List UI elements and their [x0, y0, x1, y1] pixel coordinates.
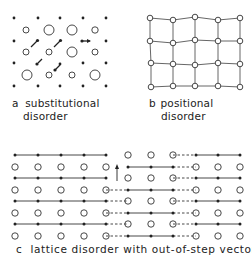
panel-b-letter: b [149, 97, 156, 109]
panel-c-right [173, 154, 243, 240]
panel-c-letter: c [16, 243, 22, 255]
panel-c-left-dot-rows [14, 154, 108, 226]
panel-b-title-line1: positional [160, 97, 213, 109]
panel-c-label: c lattice disorder with out-of-step vect… [16, 244, 252, 255]
panel-b-label: b positional [149, 98, 213, 109]
panel-a-title-line1: substitutional [25, 97, 99, 109]
panel-a-substitutional-lattice [13, 17, 108, 88]
panel-a-displacement-arrows [31, 39, 91, 72]
panel-c-caption: lattice disorder with out-of-step vector [31, 243, 252, 255]
panel-b-positional-lattice [147, 14, 243, 90]
disorder-diagram [0, 0, 252, 261]
panel-a-label-line2: disorder [23, 111, 68, 122]
panel-a-label: a substitutional [12, 98, 100, 109]
panel-c-lattice [12, 152, 243, 239]
out-of-step-vector-arrow [115, 164, 119, 181]
panel-a-circles [22, 25, 100, 80]
panel-c-middle [106, 152, 196, 238]
panel-b-label-line2: disorder [161, 111, 206, 122]
panel-a-letter: a [12, 97, 19, 109]
